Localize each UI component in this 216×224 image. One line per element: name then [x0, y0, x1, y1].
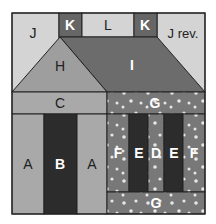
- label-l: L: [104, 17, 112, 33]
- label-k-left: K: [65, 17, 75, 33]
- label-g-bottom: G: [151, 195, 162, 211]
- label-d: D: [151, 145, 161, 161]
- label-a-left: A: [23, 156, 33, 172]
- label-h: H: [55, 58, 65, 74]
- label-e-right: E: [169, 145, 178, 161]
- label-c: C: [55, 95, 65, 111]
- label-j: J: [30, 25, 37, 41]
- label-b: B: [55, 156, 65, 172]
- label-f-left: F: [114, 145, 123, 161]
- label-a-right: A: [87, 156, 97, 172]
- label-i: I: [130, 57, 134, 73]
- label-f-right: F: [190, 145, 199, 161]
- label-e-left: E: [134, 145, 143, 161]
- label-g-top: G: [150, 95, 161, 111]
- label-j-rev: J rev.: [168, 26, 199, 41]
- quilt-block-diagram: J K L K J rev. H I C G A B A F E D E F G: [0, 0, 216, 224]
- label-k-right: K: [140, 17, 150, 33]
